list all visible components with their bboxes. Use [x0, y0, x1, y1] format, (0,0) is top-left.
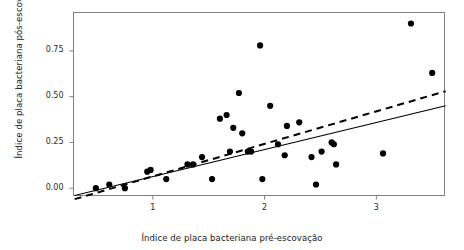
- y-tick-label: 0.25: [34, 137, 64, 146]
- data-point: [236, 90, 242, 96]
- x-axis-title: Índice de placa bacteriana pré-escovação: [0, 233, 464, 243]
- data-point: [429, 70, 435, 76]
- data-point: [122, 185, 128, 191]
- data-point: [230, 125, 236, 131]
- data-point: [282, 152, 288, 158]
- data-point: [199, 154, 205, 160]
- data-point: [93, 185, 99, 191]
- data-point: [275, 141, 281, 147]
- data-point: [248, 148, 254, 154]
- y-axis-title: Índice de placa bacteriana pós-escovação: [14, 38, 25, 158]
- data-point: [333, 161, 339, 167]
- scatter-plot-figure: Índice de placa bacteriana pós-escovação…: [0, 0, 464, 250]
- data-point: [190, 161, 196, 167]
- data-point: [227, 148, 233, 154]
- data-point: [257, 42, 263, 48]
- y-tick-label: 0.50: [34, 91, 64, 100]
- data-point: [313, 181, 319, 187]
- data-point: [318, 148, 324, 154]
- data-point: [408, 20, 414, 26]
- data-point: [223, 112, 229, 118]
- x-tick-label: 3: [366, 203, 386, 212]
- data-point: [163, 176, 169, 182]
- data-point: [106, 181, 112, 187]
- y-tick-label: 0.00: [34, 183, 64, 192]
- data-point: [259, 176, 265, 182]
- plot-frame: [74, 13, 445, 196]
- data-point: [148, 167, 154, 173]
- y-axis-title-container: Índice de placa bacteriana pós-escovação: [6, 0, 32, 196]
- x-tick-label: 1: [143, 203, 163, 212]
- data-point: [308, 154, 314, 160]
- data-point: [217, 116, 223, 122]
- y-tick-label: 0.75: [34, 45, 64, 54]
- data-point: [209, 176, 215, 182]
- data-point: [267, 103, 273, 109]
- data-point: [184, 161, 190, 167]
- x-tick-label: 2: [255, 203, 275, 212]
- data-point: [296, 119, 302, 125]
- plot-canvas: [0, 0, 464, 250]
- data-point: [380, 150, 386, 156]
- data-point: [331, 141, 337, 147]
- data-point: [284, 123, 290, 129]
- data-point: [239, 130, 245, 136]
